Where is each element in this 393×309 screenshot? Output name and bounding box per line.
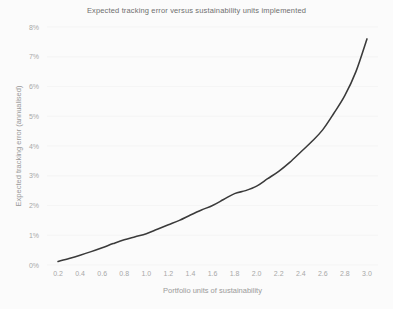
chart-container: Expected tracking error versus sustainab… bbox=[0, 0, 393, 309]
y-tick-label: 2% bbox=[29, 202, 39, 209]
gridlines bbox=[47, 27, 378, 265]
x-tick-label: 1.8 bbox=[230, 270, 240, 277]
x-tick-label: 0.4 bbox=[75, 270, 85, 277]
y-tick-label: 7% bbox=[29, 53, 39, 60]
x-axis-ticks: 0.20.40.60.81.01.21.41.61.82.02.22.42.62… bbox=[53, 270, 372, 277]
data-series-group bbox=[58, 39, 367, 262]
data-line-series bbox=[58, 39, 367, 262]
x-tick-label: 2.6 bbox=[318, 270, 328, 277]
y-tick-label: 0% bbox=[29, 262, 39, 269]
y-tick-label: 1% bbox=[29, 232, 39, 239]
x-axis-title: Portfolio units of sustainability bbox=[163, 286, 262, 295]
x-tick-label: 1.4 bbox=[186, 270, 196, 277]
x-tick-label: 0.6 bbox=[97, 270, 107, 277]
x-tick-label: 0.8 bbox=[119, 270, 129, 277]
x-tick-label: 1.6 bbox=[208, 270, 218, 277]
x-tick-label: 2.2 bbox=[274, 270, 284, 277]
line-chart-plot: 0%1%2%3%4%5%6%7%8% 0.20.40.60.81.01.21.4… bbox=[0, 0, 393, 309]
y-axis-title: Expected tracking error (annualised) bbox=[14, 85, 23, 206]
y-axis-ticks: 0%1%2%3%4%5%6%7%8% bbox=[29, 24, 39, 269]
x-tick-label: 3.0 bbox=[362, 270, 372, 277]
x-tick-label: 2.0 bbox=[252, 270, 262, 277]
y-tick-label: 3% bbox=[29, 172, 39, 179]
y-tick-label: 8% bbox=[29, 24, 39, 31]
y-tick-label: 5% bbox=[29, 113, 39, 120]
x-tick-label: 2.4 bbox=[296, 270, 306, 277]
x-tick-label: 0.2 bbox=[53, 270, 63, 277]
x-tick-label: 1.0 bbox=[141, 270, 151, 277]
y-tick-label: 4% bbox=[29, 143, 39, 150]
y-tick-label: 6% bbox=[29, 83, 39, 90]
x-tick-label: 2.8 bbox=[340, 270, 350, 277]
x-tick-label: 1.2 bbox=[163, 270, 173, 277]
